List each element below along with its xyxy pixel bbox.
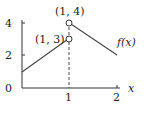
function-label: f(x) <box>116 36 136 49</box>
y-tick-label-2: 2 <box>5 49 12 62</box>
annotation-1-3: (1, 3) <box>35 33 65 46</box>
x-axis-label: x <box>128 82 135 95</box>
x-tick-label-2: 2 <box>113 91 120 104</box>
function-plot: 4 2 0 1 2 x f(x) (1, 4) (1, 3) <box>0 0 144 114</box>
open-point-1-3 <box>66 36 72 42</box>
open-point-1-4 <box>66 20 72 26</box>
y-tick-label-0: 0 <box>5 82 12 95</box>
f-right-piece <box>72 25 117 55</box>
y-tick-label-4: 4 <box>5 17 12 30</box>
annotation-1-4: (1, 4) <box>55 5 85 18</box>
x-tick-label-1: 1 <box>65 91 72 104</box>
